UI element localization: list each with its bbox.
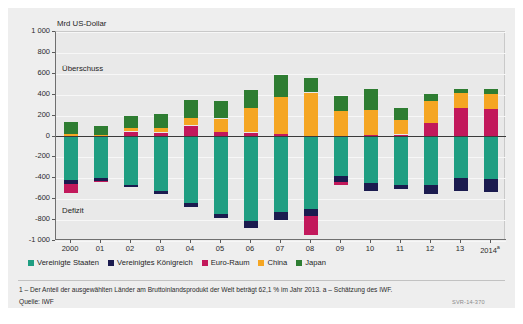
x-axis-tick-label: 03 <box>144 244 176 253</box>
bar-segment <box>334 96 348 111</box>
x-axis-tick-mark <box>460 240 461 243</box>
bar-segment <box>244 108 258 132</box>
legend-item[interactable]: Euro-Raum <box>202 258 250 267</box>
chart-legend: Vereinigte StaatenVereinigtes Königreich… <box>28 258 326 267</box>
bar-segment <box>424 94 438 100</box>
bar-segment <box>454 108 468 136</box>
source-text: Quelle: IWF <box>19 298 54 305</box>
legend-swatch-icon <box>202 260 208 266</box>
bar-segment <box>394 108 408 120</box>
x-axis-tick-label: 11 <box>384 244 416 253</box>
bar-segment <box>154 114 168 128</box>
legend-item[interactable]: Japan <box>296 258 326 267</box>
x-axis-tick-label: 13 <box>444 244 476 253</box>
bar-segment <box>184 203 198 208</box>
x-axis-tick-mark <box>70 240 71 243</box>
bar-segment <box>154 191 168 194</box>
bar-segment <box>124 137 138 185</box>
bar-segment <box>364 183 378 191</box>
x-axis-tick-label: 02 <box>114 244 146 253</box>
bar-segment <box>454 89 468 93</box>
bar-segment <box>64 184 78 193</box>
zero-baseline <box>56 136 506 138</box>
legend-label: Euro-Raum <box>211 258 250 267</box>
bar-segment <box>424 123 438 137</box>
y-axis-tick-label: -1 000 <box>29 236 50 244</box>
bar-segment <box>124 185 138 188</box>
plot-wrapper: Überschuss Defizit <box>55 31 505 240</box>
plot-area: Überschuss Defizit <box>55 31 505 240</box>
bar-segment <box>304 216 318 235</box>
chart-figure: Mrd US-Dollar 1 0008006004002000-200-400… <box>0 0 523 324</box>
bar-segment <box>154 137 168 191</box>
bar-segment <box>394 137 408 185</box>
bar-segment <box>214 214 228 218</box>
bar-segment <box>214 137 228 215</box>
legend-swatch-icon <box>28 260 34 266</box>
x-axis-tick-mark <box>400 240 401 243</box>
legend-swatch-icon <box>296 260 302 266</box>
bar-segment <box>484 137 498 180</box>
bar-segment <box>424 137 438 185</box>
bar-segment <box>394 185 408 190</box>
bar-segment <box>154 128 168 133</box>
bar-segment <box>244 221 258 229</box>
bar-segment <box>274 137 288 212</box>
legend-label: Vereinigte Staaten <box>37 258 99 267</box>
bar-segment <box>274 97 288 134</box>
x-axis-tick-label: 09 <box>324 244 356 253</box>
x-axis-tick-label: 2000 <box>54 244 86 253</box>
deficit-annotation: Defizit <box>62 206 84 215</box>
x-axis-tick-label: 05 <box>204 244 236 253</box>
bar-segment <box>274 212 288 220</box>
figure-code: SVR-14-370 <box>452 299 485 305</box>
x-axis-tick-mark <box>250 240 251 243</box>
legend-swatch-icon <box>258 260 264 266</box>
bar-segment <box>424 185 438 195</box>
bar-segment <box>64 137 78 181</box>
y-axis-tick-label: 1 000 <box>31 27 50 35</box>
x-axis-tick-labels: 2000010203040506070809101112132014a <box>55 244 505 255</box>
legend-label: China <box>267 258 287 267</box>
bar-segment <box>484 109 498 136</box>
bar-segment <box>244 137 258 221</box>
bar-segment <box>214 119 228 133</box>
bar-segment <box>454 178 468 191</box>
x-axis-tick-mark <box>310 240 311 243</box>
bar-segment <box>184 137 198 203</box>
bar-segment <box>244 90 258 108</box>
x-axis-tick-label: 01 <box>84 244 116 253</box>
x-axis-tick-mark <box>130 240 131 243</box>
bar-segment <box>334 137 348 177</box>
legend-item[interactable]: China <box>258 258 287 267</box>
x-axis-tick-mark <box>280 240 281 243</box>
legend-swatch-icon <box>108 260 114 266</box>
legend-item[interactable]: Vereinigte Staaten <box>28 258 99 267</box>
y-axis-tick-label: 0 <box>46 132 50 140</box>
x-axis-tick-label: 12 <box>414 244 446 253</box>
x-axis-tick-mark <box>190 240 191 243</box>
bar-segment <box>364 137 378 183</box>
y-axis-tick-label: -200 <box>35 152 50 160</box>
bar-segment <box>94 137 108 178</box>
legend-label: Japan <box>305 258 326 267</box>
y-axis-tick-label: -600 <box>35 194 50 202</box>
bar-segment <box>424 101 438 124</box>
footnote-separator <box>18 280 505 281</box>
bar-segment <box>184 100 198 118</box>
bar-segment <box>394 120 408 134</box>
bar-segment <box>304 93 318 137</box>
bar-segment <box>484 94 498 110</box>
y-axis-tick-label: 200 <box>37 111 50 119</box>
bar-segment <box>364 89 378 110</box>
y-axis-tick-label: 400 <box>37 90 50 98</box>
bar-segment <box>334 111 348 136</box>
surplus-annotation: Überschuss <box>62 64 103 73</box>
x-axis-tick-mark <box>160 240 161 243</box>
x-axis-tick-label: 04 <box>174 244 206 253</box>
legend-item[interactable]: Vereinigtes Königreich <box>108 258 193 267</box>
x-axis-tick-mark <box>490 240 491 243</box>
legend-label: Vereinigtes Königreich <box>117 258 193 267</box>
bar-segment <box>334 182 348 184</box>
x-axis-tick-mark <box>370 240 371 243</box>
